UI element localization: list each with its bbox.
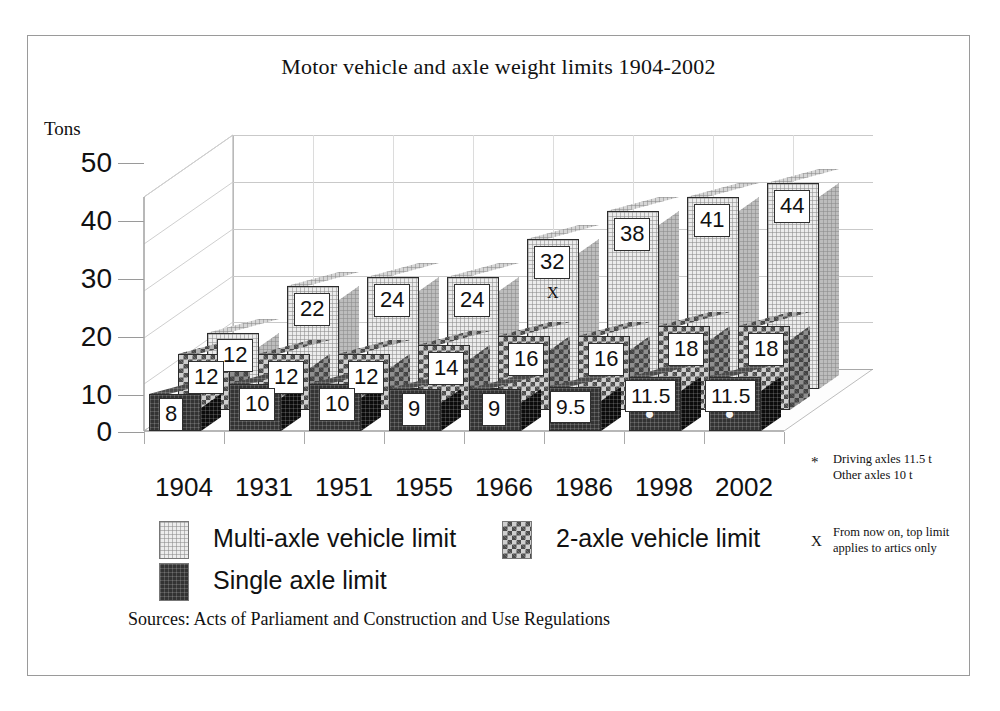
legend-label-two-axle[interactable]: 2-axle vehicle limit xyxy=(556,524,760,553)
footnote-x-line2: applies to artics only xyxy=(833,541,937,555)
footnote-symbol-star: * xyxy=(811,454,819,471)
footnote-symbol-x: X xyxy=(811,533,822,550)
footnote-text-x: From now on, top limitapplies to artics … xyxy=(833,524,949,557)
legend-label-single-axle[interactable]: Single axle limit xyxy=(213,566,387,595)
legend-swatch-multi-axle xyxy=(159,521,189,559)
legend-swatch-two-axle xyxy=(502,521,532,559)
source-note: Sources: Acts of Parliament and Construc… xyxy=(128,609,610,630)
footnote-star-line2: Other axles 10 t xyxy=(833,468,913,482)
footnote-text-star: Driving axles 11.5 tOther axles 10 t xyxy=(833,451,932,484)
footnote-x-line1: From now on, top limit xyxy=(833,525,949,539)
footnote-star-line1: Driving axles 11.5 t xyxy=(833,452,932,466)
legend-swatch-single-axle xyxy=(159,563,189,601)
legend: Multi-axle vehicle limit 2-axle vehicle … xyxy=(28,36,971,677)
chart-frame: Motor vehicle and axle weight limits 190… xyxy=(27,35,970,676)
legend-label-multi-axle[interactable]: Multi-axle vehicle limit xyxy=(213,524,456,553)
